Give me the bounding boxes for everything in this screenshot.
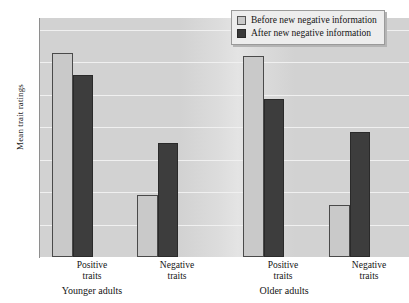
legend: Before new negative information After ne… [231,10,385,45]
x-label-line2: traits [326,271,409,282]
gridline-6 [40,62,409,63]
gridline-5 [40,95,409,96]
x-label-younger-negative: Negative traits [134,260,220,282]
bar-older-negative-after [350,132,370,257]
bar-chart-figure: 7 6 5 4 3 2 1 0 Mean trait ratings Befor… [0,0,409,303]
x-label-line1: Negative [160,260,194,270]
bar-younger-positive-before [52,53,73,257]
x-label-line2: traits [240,271,326,282]
legend-label-after: After new negative information [251,28,371,39]
legend-label-before: Before new negative information [251,15,377,26]
bar-older-positive-after [264,99,284,257]
bar-older-positive-before [243,56,264,257]
x-label-older-negative: Negative traits [326,260,409,282]
cut-off-caption [120,0,330,2]
x-label-line1: Positive [77,260,108,270]
y-axis-title: Mean trait ratings [15,57,25,177]
legend-entry-after: After new negative information [237,27,377,40]
plot-area [40,18,409,257]
bar-younger-negative-before [137,195,158,257]
x-label-older-positive: Positive traits [240,260,326,282]
x-label-line1: Negative [352,260,386,270]
bar-older-negative-before [329,205,350,257]
y-axis-line [39,18,40,258]
bar-younger-negative-after [158,143,178,257]
legend-swatch-after-icon [237,29,246,38]
legend-entry-before: Before new negative information [237,14,377,27]
x-label-younger-positive: Positive traits [49,260,135,282]
x-label-line1: Positive [268,260,299,270]
x-label-line2: traits [134,271,220,282]
x-super-label-older-adults: Older adults [199,285,369,296]
x-super-label-younger-adults: Younger adults [7,285,177,296]
legend-swatch-before-icon [237,16,246,25]
gridline-4 [40,127,409,128]
x-label-line2: traits [49,271,135,282]
bar-younger-positive-after [73,75,93,257]
